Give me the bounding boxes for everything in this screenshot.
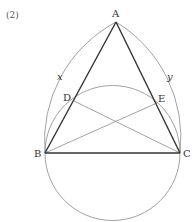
point-label-a: A — [111, 8, 120, 19]
problem-number: (2) — [6, 10, 19, 20]
point-label-c: C — [183, 148, 191, 159]
segment-cd — [74, 101, 180, 153]
arc-label-x: x — [57, 71, 63, 82]
point-label-e: E — [158, 93, 165, 104]
geometry-figure: (2) A B C D E x y — [0, 0, 196, 222]
point-label-b: B — [34, 148, 41, 159]
point-label-d: D — [63, 92, 71, 103]
segment-ac — [116, 22, 180, 153]
segment-be — [45, 103, 157, 153]
arc-label-y: y — [166, 71, 173, 82]
